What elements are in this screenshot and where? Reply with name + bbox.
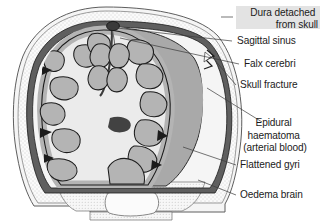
label-flattened-gyri: Flattened gyri: [240, 159, 300, 170]
anatomical-illustration: Dura detached from skull Sagittal sinus …: [0, 0, 322, 222]
label-skull-fracture-line-1: Skull fracture: [240, 79, 298, 90]
label-skull-fracture: Skull fracture: [240, 79, 298, 90]
label-text-layer: Dura detached from skull Sagittal sinus …: [237, 7, 318, 200]
label-oedema-brain: Oedema brain: [240, 189, 303, 200]
label-sagittal-sinus-line-1: Sagittal sinus: [237, 35, 296, 46]
label-epidural-haematoma-line-3: (arterial blood): [243, 142, 306, 153]
label-oedema-brain-line-1: Oedema brain: [240, 189, 303, 200]
label-epidural-haematoma: Epidural haematoma (arterial blood): [243, 117, 306, 153]
label-dura-detached-line-1: Dura detached: [250, 7, 315, 18]
label-falx-cerebri: Falx cerebri: [244, 58, 296, 69]
foramen-magnum-opening: [105, 190, 159, 216]
label-falx-cerebri-line-1: Falx cerebri: [244, 58, 296, 69]
label-dura-detached-line-2: from skull: [276, 19, 318, 30]
label-sagittal-sinus: Sagittal sinus: [237, 35, 296, 46]
label-epidural-haematoma-line-2: haematoma: [247, 130, 300, 141]
epidural-haematoma-figure: Dura detached from skull Sagittal sinus …: [0, 0, 322, 222]
label-flattened-gyri-line-1: Flattened gyri: [240, 159, 300, 170]
label-epidural-haematoma-line-1: Epidural: [256, 117, 292, 128]
superior-sagittal-sinus: [107, 21, 120, 30]
